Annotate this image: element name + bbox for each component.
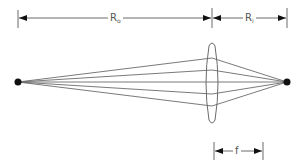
ray-2-incident xyxy=(18,70,212,82)
ri-sub: i xyxy=(252,17,254,24)
f-main: f xyxy=(235,145,239,156)
ro-sub: o xyxy=(117,17,121,24)
ray-5-refracted xyxy=(212,82,287,106)
convex-lens xyxy=(206,43,218,123)
object-distance-label: Ro xyxy=(108,12,123,26)
ro-main: R xyxy=(110,12,117,23)
ray-4-refracted xyxy=(212,82,287,94)
ri-main: R xyxy=(245,12,252,23)
ray-4-incident xyxy=(18,82,212,94)
image-distance-label: Ri xyxy=(243,12,256,26)
image-point xyxy=(284,79,291,86)
ray-2-refracted xyxy=(212,70,287,82)
incident-rays xyxy=(18,58,212,106)
refracted-rays xyxy=(212,58,287,106)
lens-diagram xyxy=(0,0,302,165)
ray-5-incident xyxy=(18,82,212,106)
object-point xyxy=(15,79,22,86)
focal-length-label: f xyxy=(233,145,241,156)
ray-1-incident xyxy=(18,58,212,82)
ray-1-refracted xyxy=(212,58,287,82)
